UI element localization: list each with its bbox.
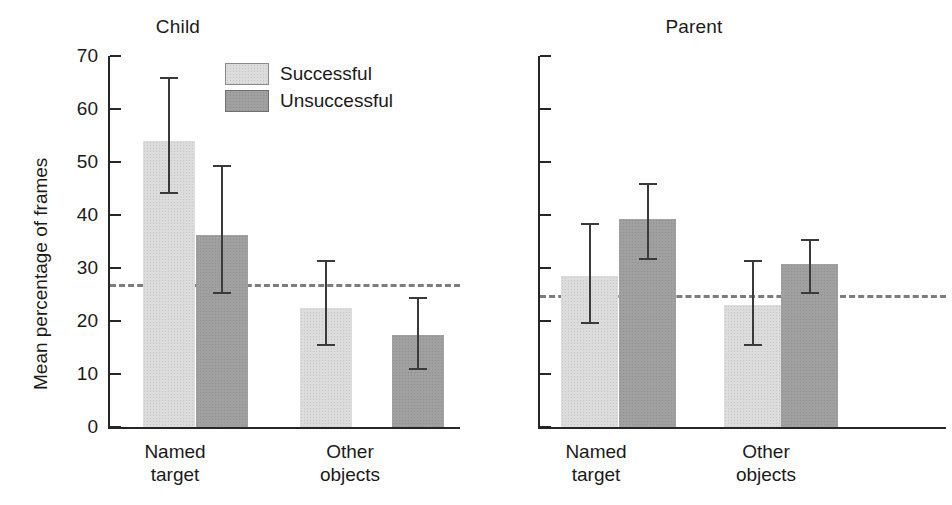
error-bar [143, 77, 195, 194]
error-bar-stem [809, 239, 811, 295]
panel-child: Child Mean percentage of frames 01020304… [0, 0, 476, 505]
y-tick [540, 373, 551, 375]
legend-label-successful: Successful [280, 63, 372, 85]
error-bar-stem [168, 77, 170, 194]
error-bar-cap-lower [160, 192, 178, 194]
x-axis-line [108, 427, 460, 429]
plot-area-parent: NamedtargetOtherobjects [476, 0, 952, 505]
error-bar-cap-lower [409, 368, 427, 370]
error-bar-stem [589, 223, 591, 324]
category-label: Otherobjects [280, 440, 420, 486]
y-tick-label: 70 [52, 45, 98, 67]
y-tick [540, 214, 551, 216]
legend-item-unsuccessful: Unsuccessful [225, 90, 393, 112]
error-bar-cap-lower [639, 258, 657, 260]
y-tick [110, 320, 121, 322]
category-label-line1: Named [105, 440, 245, 463]
y-tick [110, 214, 121, 216]
y-tick [110, 108, 121, 110]
y-tick [110, 267, 121, 269]
y-tick-label: 0 [52, 416, 98, 438]
legend-swatch-unsuccessful [225, 90, 269, 112]
error-bar [619, 183, 676, 260]
figure-bar-chart-child-parent: Child Mean percentage of frames 01020304… [0, 0, 952, 505]
error-bar-cap-lower [581, 322, 599, 324]
error-bar-cap-upper [639, 183, 657, 185]
legend-label-unsuccessful: Unsuccessful [280, 90, 393, 112]
category-label-line2: objects [696, 463, 836, 486]
error-bar-cap-lower [317, 344, 335, 346]
y-tick [540, 320, 551, 322]
error-bar [781, 239, 838, 295]
category-label: Otherobjects [696, 440, 836, 486]
category-label-line1: Other [696, 440, 836, 463]
y-tick-label: 30 [52, 257, 98, 279]
error-bar [196, 165, 248, 295]
x-axis-line [538, 427, 946, 429]
category-label-line1: Other [280, 440, 420, 463]
error-bar-stem [325, 260, 327, 346]
error-bar-cap-upper [801, 239, 819, 241]
y-tick [110, 55, 121, 57]
y-tick-label: 50 [52, 151, 98, 173]
error-bar-cap-upper [213, 165, 231, 167]
y-tick-label: 20 [52, 310, 98, 332]
category-label-line2: target [526, 463, 666, 486]
y-tick-label: 60 [52, 98, 98, 120]
error-bar-stem [417, 297, 419, 370]
y-tick [540, 108, 551, 110]
error-bar [561, 223, 618, 324]
y-tick [540, 161, 551, 163]
error-bar [392, 297, 444, 370]
y-tick [110, 161, 121, 163]
legend-swatch-successful [225, 63, 269, 85]
error-bar-stem [221, 165, 223, 295]
y-tick [110, 373, 121, 375]
category-label-line2: target [105, 463, 245, 486]
legend-item-successful: Successful [225, 63, 393, 85]
error-bar [724, 260, 781, 346]
y-tick [540, 55, 551, 57]
error-bar-cap-upper [317, 260, 335, 262]
y-tick [540, 426, 551, 428]
error-bar [300, 260, 352, 346]
category-label-line2: objects [280, 463, 420, 486]
error-bar-cap-lower [744, 344, 762, 346]
y-tick-label: 40 [52, 204, 98, 226]
category-label: Namedtarget [526, 440, 666, 486]
error-bar-cap-upper [581, 223, 599, 225]
category-label-line1: Named [526, 440, 666, 463]
error-bar-stem [647, 183, 649, 260]
panel-parent: Parent NamedtargetOtherobjects [476, 0, 952, 505]
category-label: Namedtarget [105, 440, 245, 486]
error-bar-cap-upper [744, 260, 762, 262]
y-tick-label: 10 [52, 363, 98, 385]
legend: Successful Unsuccessful [225, 63, 393, 117]
y-tick [110, 426, 121, 428]
error-bar-cap-upper [160, 77, 178, 79]
error-bar-cap-lower [213, 292, 231, 294]
error-bar-cap-upper [409, 297, 427, 299]
y-tick [540, 267, 551, 269]
error-bar-cap-lower [801, 292, 819, 294]
error-bar-stem [752, 260, 754, 346]
